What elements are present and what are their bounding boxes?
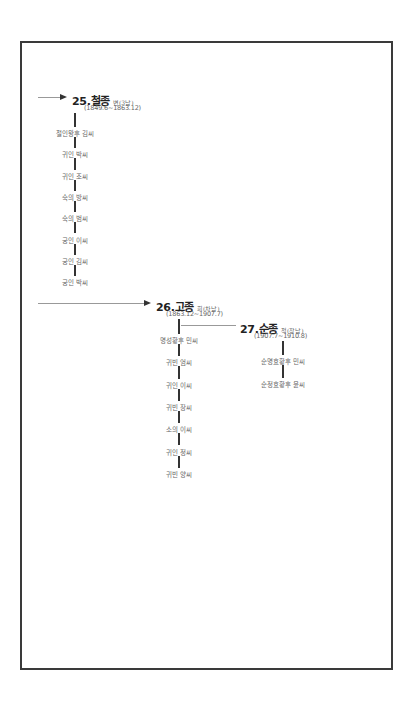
descent-connector — [74, 244, 76, 255]
king-reign-dates: (1907.7~1910.8) — [254, 332, 307, 340]
descent-connector — [178, 366, 180, 378]
descent-connector — [178, 344, 180, 356]
descent-connector — [74, 158, 76, 169]
descent-connector — [178, 456, 180, 468]
lineage-arrow-25 — [38, 97, 61, 98]
descent-connector — [74, 113, 76, 127]
descent-connector — [282, 365, 284, 378]
descent-connector — [282, 341, 284, 355]
descent-connector — [74, 222, 76, 233]
descent-connector — [74, 137, 76, 148]
descent-connector — [178, 319, 180, 334]
spouse-name: 순정효황후 윤씨 — [261, 379, 305, 389]
arrow-head-icon — [60, 94, 67, 100]
arrow-head-icon — [144, 300, 151, 306]
king-reign-dates: (1849.6~1863.12) — [84, 104, 141, 112]
spouse-name: 궁인 박씨 — [62, 277, 88, 287]
descent-connector — [74, 265, 76, 276]
descent-connector — [178, 389, 180, 401]
descent-connector — [74, 201, 76, 212]
king-reign-dates: (1863.12~1907.7) — [166, 310, 223, 318]
descent-connector — [178, 411, 180, 423]
spouse-name: 귀빈 양씨 — [166, 469, 192, 479]
descent-connector — [178, 433, 180, 445]
descent-connector — [74, 180, 76, 191]
lineage-arrow-26 — [38, 303, 145, 304]
succession-connector — [181, 325, 236, 326]
